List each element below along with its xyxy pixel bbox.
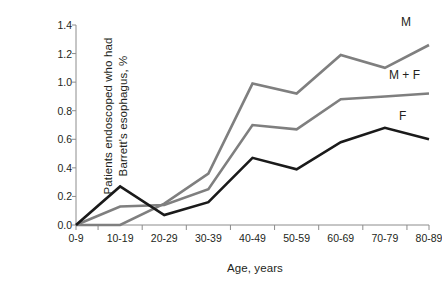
series-label-MF: M + F [389,68,420,82]
series-line-M [76,45,429,225]
series-label-M: M [401,15,411,29]
series-label-F: F [399,109,406,123]
series-lines [76,45,429,225]
series-line-F [76,128,429,225]
